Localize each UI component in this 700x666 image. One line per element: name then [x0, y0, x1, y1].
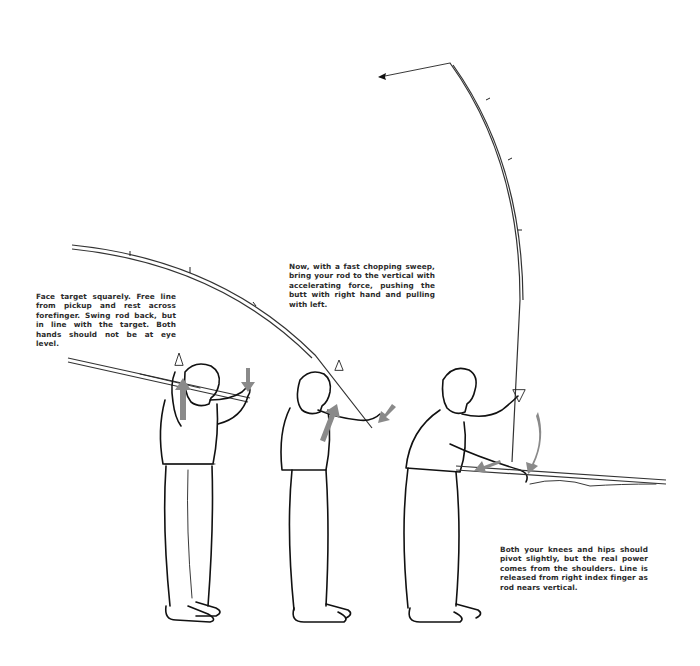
figure-2	[281, 360, 380, 622]
down-left-arrow-icon	[378, 404, 396, 423]
figure-3	[404, 368, 666, 622]
fishing-line	[380, 63, 450, 77]
curved-down-arrow-icon	[526, 412, 541, 474]
left-arrow-icon	[474, 460, 501, 473]
down-arrow-icon	[241, 368, 255, 392]
arrowhead-icon	[378, 73, 386, 80]
figure-1	[68, 353, 250, 622]
casting-illustration	[0, 0, 700, 666]
rod-figure-3	[450, 63, 520, 462]
